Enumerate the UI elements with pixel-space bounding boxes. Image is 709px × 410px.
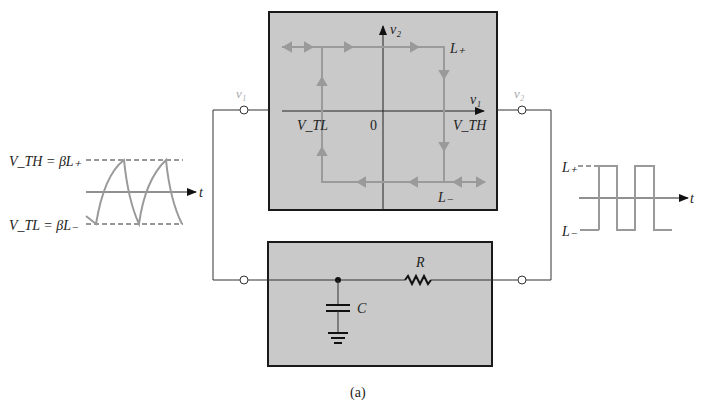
- output-time-label: t: [690, 191, 695, 206]
- vth-label: V_TH: [453, 118, 487, 133]
- input-waveform: V_TH = βL₊ V_TL = βL₋ t: [9, 154, 204, 233]
- v1-axis-label: v₁: [470, 92, 481, 107]
- output-upper-label: L₊: [561, 160, 578, 175]
- v2-axis-label: v₂: [390, 22, 401, 37]
- input-time-label: t: [199, 185, 204, 200]
- lower-level-label: L₋: [437, 190, 454, 205]
- v2-terminal-label: v₂: [514, 86, 525, 101]
- v1-terminal-label: v₁: [236, 86, 246, 101]
- output-waveform: L₊ L₋ t: [561, 160, 695, 239]
- vth-equation: V_TH = βL₊: [9, 154, 82, 169]
- input-terminal-bottom: [240, 276, 248, 284]
- capacitor-label: C: [357, 301, 367, 316]
- transfer-characteristic-box: v₂ v₁ 0 L₊ L₋ V_TL V_TH: [269, 12, 497, 210]
- vtl-label: V_TL: [297, 118, 328, 133]
- rc-network-box: R C: [268, 242, 492, 366]
- output-lower-label: L₋: [561, 224, 578, 239]
- resistor-label: R: [415, 255, 425, 270]
- upper-level-label: L₊: [449, 41, 466, 56]
- input-terminal-top: [240, 106, 248, 114]
- schmitt-trigger-astable-diagram: v₂ v₁ 0 L₊ L₋ V_TL V_TH v₁ v₂: [0, 0, 709, 410]
- vtl-equation: V_TL = βL₋: [9, 218, 79, 233]
- origin-label: 0: [370, 118, 377, 133]
- output-terminal-bottom: [518, 276, 526, 284]
- figure-caption: (a): [350, 385, 366, 401]
- output-terminal-top: [518, 106, 526, 114]
